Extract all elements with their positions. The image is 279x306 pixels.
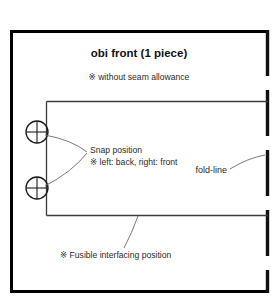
pattern-diagram-page: obi front (1 piece) ※ without seam allow… bbox=[0, 0, 279, 306]
fusible-interfacing-label: ※ Fusible interfacing position bbox=[60, 250, 172, 260]
snap-marker-top bbox=[26, 121, 48, 143]
diagram-title: obi front (1 piece) bbox=[91, 47, 188, 59]
snap-position-note: ※ left: back, right: front bbox=[90, 157, 178, 167]
sewing-pattern-diagram: obi front (1 piece) ※ without seam allow… bbox=[0, 0, 279, 306]
seam-allowance-note: ※ without seam allowance bbox=[89, 72, 190, 82]
fold-line-label: fold-line bbox=[195, 165, 227, 175]
snap-position-label: Snap position bbox=[90, 145, 142, 155]
snap-marker-bottom bbox=[26, 177, 48, 199]
